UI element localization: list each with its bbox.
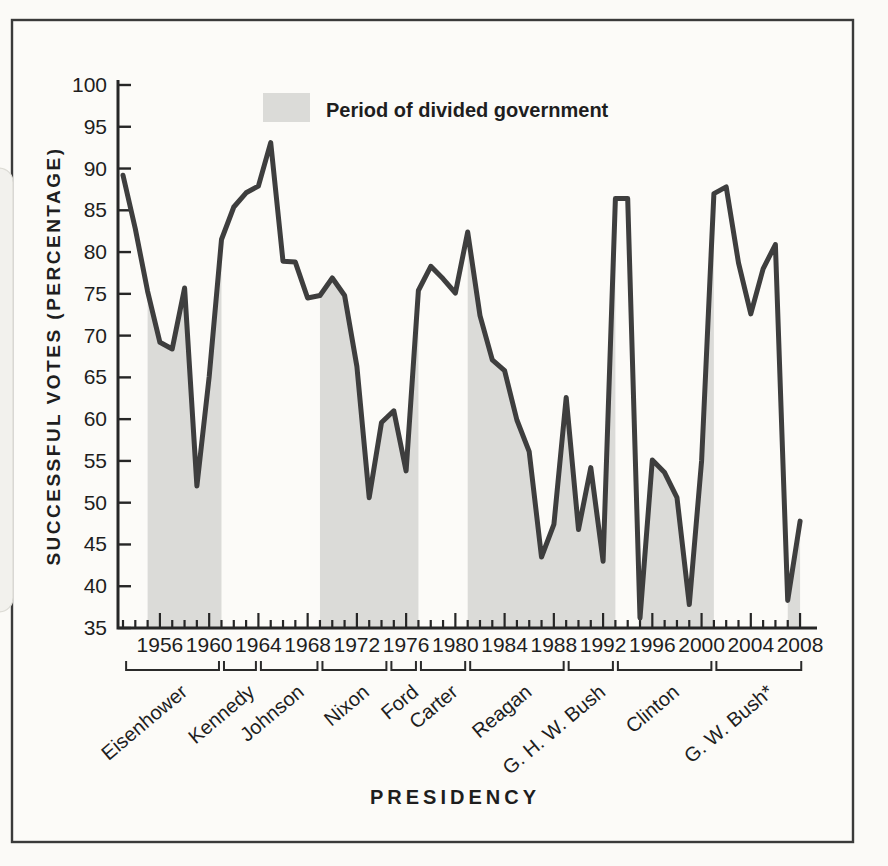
year-label: 1960 <box>186 633 233 656</box>
y-tick-label: 85 <box>84 198 107 221</box>
year-label: 2000 <box>678 633 725 656</box>
y-tick-label: 90 <box>84 157 107 180</box>
year-label: 1976 <box>383 633 430 656</box>
year-label: 1996 <box>629 633 676 656</box>
year-label: 1980 <box>432 633 479 656</box>
year-label: 1956 <box>137 633 184 656</box>
year-label: 2008 <box>777 633 824 656</box>
presidential-success-chart: 35404550556065707580859095100 1956196019… <box>0 0 888 866</box>
legend-label: Period of divided government <box>326 99 609 121</box>
year-label: 1984 <box>481 633 528 656</box>
y-tick-label: 55 <box>84 449 107 472</box>
year-label: 1968 <box>284 633 331 656</box>
x-axis-title: PRESIDENCY <box>370 786 540 808</box>
page-edge-artifact <box>0 168 13 612</box>
year-label: 1964 <box>235 633 282 656</box>
y-tick-label: 45 <box>84 532 107 555</box>
y-tick-label: 70 <box>84 324 107 347</box>
y-tick-label: 40 <box>84 574 107 597</box>
year-label: 1972 <box>334 633 381 656</box>
legend-shading-swatch <box>263 93 310 122</box>
clipped-figure-title: PRESIDENTIAL SUCCESS ON CONGRESSIONAL VO… <box>0 0 888 5</box>
year-label: 1988 <box>530 633 577 656</box>
y-tick-label: 75 <box>84 282 107 305</box>
y-tick-label: 95 <box>84 115 107 138</box>
y-tick-label: 60 <box>84 407 107 430</box>
year-label: 2004 <box>727 633 774 656</box>
y-tick-label: 35 <box>84 616 107 639</box>
y-tick-label: 80 <box>84 240 107 263</box>
y-tick-label: 50 <box>84 491 107 514</box>
y-axis-title: SUCCESSFUL VOTES (PERCENTAGE) <box>43 146 64 565</box>
y-tick-label: 100 <box>72 73 107 96</box>
y-tick-label: 65 <box>84 365 107 388</box>
year-label: 1992 <box>580 633 627 656</box>
